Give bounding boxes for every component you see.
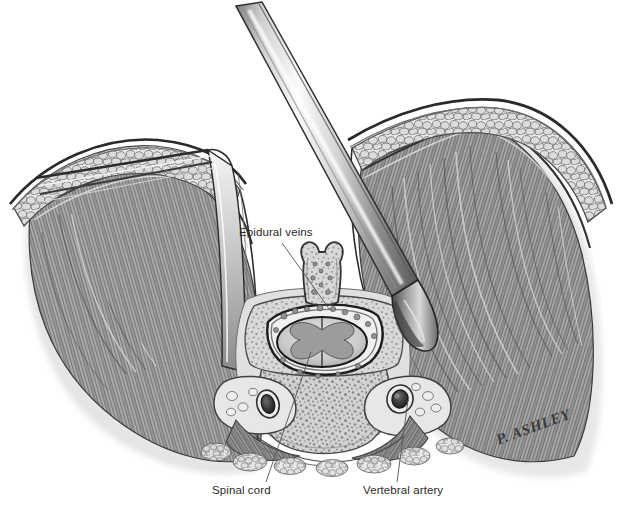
transverse-foramen-left — [214, 376, 296, 433]
medical-illustration-figure: Epidural veins Spinal cord Vertebral art… — [0, 0, 623, 507]
label-epidural-veins: Epidural veins — [239, 226, 313, 239]
label-vertebral-artery: Vertebral artery — [363, 484, 443, 497]
spinous-process — [301, 242, 343, 305]
label-spinal-cord: Spinal cord — [212, 484, 271, 497]
vessel-highlight-right — [394, 393, 399, 399]
transverse-process-left — [214, 376, 296, 433]
